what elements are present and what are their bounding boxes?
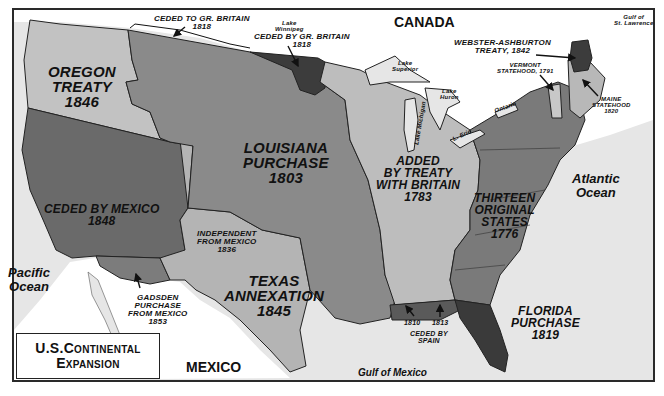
- label-oregon-treaty: OREGON TREATY 1846: [48, 64, 116, 109]
- label-gadsden-purchase: GADSDEN PURCHASE FROM MEXICO 1853: [128, 294, 188, 326]
- label-florida-purchase: FLORIDA PURCHASE 1819: [511, 305, 580, 341]
- label-thirteen-states: THIRTEEN ORIGINAL STATES 1776: [474, 192, 535, 240]
- label-vermont-statehood: VERMONT STATEHOOD, 1791: [497, 62, 553, 74]
- label-treaty-britain-1783: ADDED BY TREATY WITH BRITAIN 1783: [376, 155, 460, 203]
- label-texas-annexation: TEXAS ANNEXATION 1845: [224, 273, 324, 318]
- label-webster-ashburton: WEBSTER-ASHBURTON TREATY, 1842: [454, 39, 551, 55]
- label-gulf-st-lawrence: Gulf of St. Lawrence: [614, 14, 653, 26]
- ocean-atlantic: Atlantic Ocean: [572, 172, 620, 199]
- country-mexico: MEXICO: [186, 359, 241, 375]
- label-lake-winnipeg: Lake Winnipeg: [275, 20, 304, 32]
- label-texas-independent: INDEPENDENT FROM MEXICO 1836: [197, 230, 257, 254]
- label-louisiana-purchase: LOUISIANA PURCHASE 1803: [243, 140, 329, 185]
- label-ceded-by-britain: CEDED BY GR. BRITAIN 1818: [254, 33, 350, 49]
- label-spain-1813: 1813: [432, 319, 448, 326]
- map-title-line1: U.S.Continental: [35, 341, 141, 356]
- label-ceded-to-britain: CEDED TO GR. BRITAIN 1818: [154, 15, 250, 31]
- label-ceded-by-spain: CEDED BY SPAIN: [410, 330, 448, 344]
- ocean-pacific: Pacific Ocean: [8, 266, 50, 293]
- region-webster-ashburton: [570, 40, 592, 72]
- label-spain-1810: 1810: [404, 319, 420, 326]
- map-title-box: U.S.Continental Expansion: [16, 333, 160, 379]
- region-florida: [455, 300, 508, 372]
- ocean-gulf-of-mexico: Gulf of Mexico: [358, 368, 427, 379]
- label-ceded-by-mexico: CEDED BY MEXICO 1848: [44, 203, 159, 227]
- label-maine-statehood: MAINE STATEHOOD 1820: [592, 96, 631, 114]
- country-canada: CANADA: [394, 14, 455, 30]
- label-lake-superior: Lake Superior: [392, 60, 418, 72]
- label-lake-huron: Lake Huron: [440, 88, 459, 100]
- map-title-line2: Expansion: [56, 356, 120, 371]
